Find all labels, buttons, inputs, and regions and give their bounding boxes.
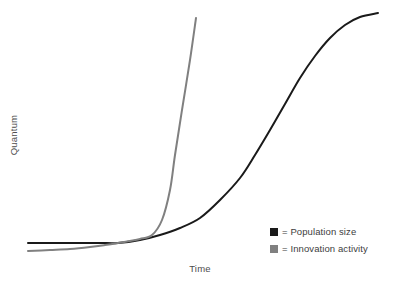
legend-label-population-size: = Population size bbox=[282, 226, 356, 237]
gray-square-icon bbox=[270, 245, 278, 253]
chart-legend: = Population size = Innovation activity bbox=[270, 226, 368, 254]
chart-figure: Quantum Time = Population size = Innovat… bbox=[0, 0, 394, 285]
series-line-innovation-activity bbox=[28, 18, 196, 251]
legend-item-population-size: = Population size bbox=[270, 226, 368, 237]
series-line-population-size bbox=[28, 13, 378, 243]
legend-item-innovation-activity: = Innovation activity bbox=[270, 243, 368, 254]
black-square-icon bbox=[270, 228, 278, 236]
x-axis-label: Time bbox=[189, 263, 211, 274]
y-axis-label: Quantum bbox=[8, 115, 19, 155]
legend-label-innovation-activity: = Innovation activity bbox=[282, 243, 368, 254]
